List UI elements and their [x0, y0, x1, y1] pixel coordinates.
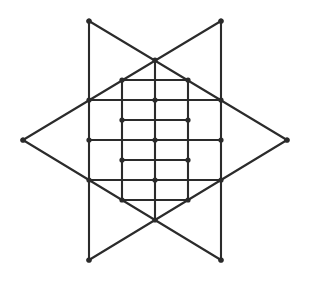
triangular-lattice-diagram [0, 0, 310, 281]
lattice-vertex [119, 197, 124, 202]
star-point-vertex [86, 257, 91, 262]
lattice-vertex [218, 137, 223, 142]
star-point-vertex [20, 137, 25, 142]
lattice-vertex [119, 157, 124, 162]
lattice-vertex [152, 177, 157, 182]
star-point-vertex [86, 18, 91, 23]
lattice-vertex [185, 157, 190, 162]
lattice-vertex [218, 177, 223, 182]
star-point-vertex [284, 137, 289, 142]
lattice-vertex [185, 197, 190, 202]
lattice-vertex [86, 97, 91, 102]
lattice-vertex [86, 177, 91, 182]
lattice-vertex [185, 77, 190, 82]
lattice-vertex [152, 137, 157, 142]
lattice-vertex [119, 77, 124, 82]
lattice-vertex [185, 117, 190, 122]
lattice-vertex [152, 217, 157, 222]
star-point-vertex [218, 257, 223, 262]
lattice-vertex [218, 97, 223, 102]
lattice-vertex-group [20, 18, 289, 262]
lattice-vertex [152, 57, 157, 62]
lattice-vertex [152, 97, 157, 102]
lattice-vertex [86, 137, 91, 142]
lattice-vertex [119, 117, 124, 122]
star-point-vertex [218, 18, 223, 23]
lattice-figure-canvas [0, 0, 310, 281]
